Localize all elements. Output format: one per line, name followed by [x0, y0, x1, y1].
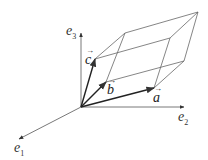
- label-vector-b: → b: [107, 83, 114, 97]
- label-vector-a: → a: [153, 91, 160, 105]
- label-e3: e3: [66, 24, 76, 41]
- label-e2-sub: 2: [184, 118, 188, 127]
- diagram-svg: [0, 0, 208, 160]
- label-vector-c: → c: [85, 53, 91, 67]
- parallelepiped-diagram: e3 e2 e1 → c → b → a: [0, 0, 208, 160]
- label-e1-sub: 1: [20, 149, 24, 158]
- arrow-accent-icon: →: [86, 47, 94, 55]
- vector-a: [81, 88, 154, 107]
- label-e1: e1: [14, 141, 24, 158]
- arrow-accent-icon: →: [154, 85, 162, 93]
- arrow-accent-icon: →: [108, 77, 116, 85]
- label-e2: e2: [178, 110, 188, 127]
- label-e3-sub: 3: [72, 32, 76, 41]
- axis-e1: [19, 107, 81, 139]
